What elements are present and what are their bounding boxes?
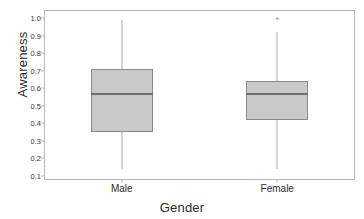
y-axis-tick-label: 0.9 (7, 31, 41, 40)
outlier-marker: * (275, 15, 279, 24)
upper-whisker (121, 20, 122, 69)
y-axis-tick-labels: 1.00.90.80.70.60.50.40.30.20.1 (0, 0, 41, 219)
y-axis-tick-label: 0.2 (7, 154, 41, 163)
y-axis-tick-mark (41, 18, 44, 19)
y-axis-tick-label: 0.3 (7, 136, 41, 145)
x-axis-tick-mark (121, 180, 122, 183)
x-axis-tick-mark (277, 180, 278, 183)
y-axis-tick-label: 0.4 (7, 119, 41, 128)
y-axis-tick-label: 1.0 (7, 14, 41, 23)
lower-whisker (121, 132, 122, 169)
y-axis-tick-mark (41, 176, 44, 177)
y-axis-tick-label: 0.8 (7, 49, 41, 58)
y-axis-tick-mark (41, 105, 44, 106)
upper-whisker (277, 32, 278, 81)
y-axis-tick-label: 0.6 (7, 84, 41, 93)
y-axis-tick-mark (41, 158, 44, 159)
y-axis-tick-label: 0.5 (7, 101, 41, 110)
median-line (91, 93, 153, 95)
box-iqr (91, 69, 153, 132)
x-axis-tick-label: Male (111, 183, 133, 194)
lower-whisker (277, 120, 278, 169)
y-axis-tick-mark (41, 123, 44, 124)
y-axis-tick-label: 0.7 (7, 66, 41, 75)
y-axis-tick-mark (41, 53, 44, 54)
y-axis-tick-label: 0.1 (7, 172, 41, 181)
y-axis-tick-mark (41, 35, 44, 36)
x-axis-tick-label: Female (261, 183, 294, 194)
y-axis-tick-mark (41, 140, 44, 141)
box-iqr (246, 81, 308, 120)
y-axis-tick-mark (41, 88, 44, 89)
x-axis-label: Gender (0, 200, 364, 215)
boxplot-figure: Awareness 1.00.90.80.70.60.50.40.30.20.1… (0, 0, 364, 219)
y-axis-tick-mark (41, 70, 44, 71)
median-line (246, 93, 308, 95)
